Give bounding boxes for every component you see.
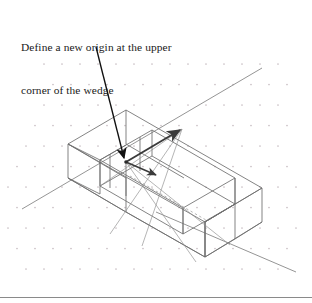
hidden-edges [130, 176, 206, 220]
annotation-line-2: corner of the wedge [21, 83, 261, 97]
channel-block-wireframe [68, 110, 262, 257]
construction-line-2 [126, 162, 196, 262]
left-rim-edge-a [68, 144, 100, 160]
right-end-channel-edge [205, 178, 235, 222]
block-left-end-face [68, 144, 126, 212]
right-end-outer-step [205, 204, 235, 257]
construction-line-5 [100, 129, 182, 186]
left-rim-edge-b [68, 178, 100, 194]
annotation-line-1: Define a new origin at the upper [21, 40, 261, 54]
right-end-bottom-edge [235, 222, 262, 239]
channel-hidden-edge [130, 176, 206, 220]
annotation-text-block: Define a new origin at the upper corner … [21, 12, 261, 126]
new-origin-vertex [124, 160, 128, 164]
block-right-end-face [205, 188, 262, 257]
figure-root: Define a new origin at the upper corner … [0, 0, 312, 303]
